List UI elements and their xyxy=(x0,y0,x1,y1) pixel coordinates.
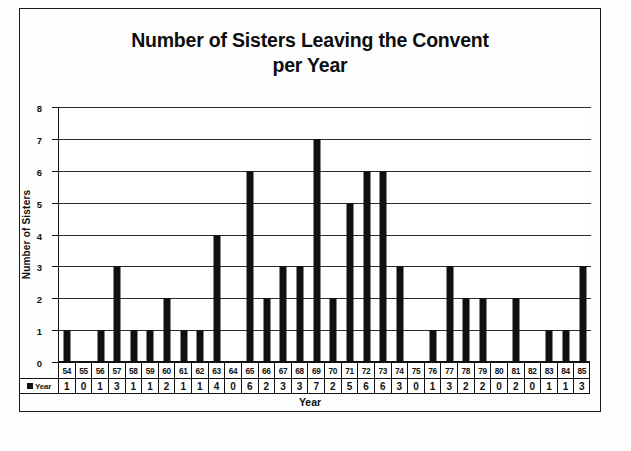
bar xyxy=(513,298,520,362)
y-tick: 4 xyxy=(52,235,59,236)
year-cell: 65 xyxy=(241,362,258,378)
value-cell: 1 xyxy=(141,378,158,394)
bar xyxy=(463,298,470,362)
year-cell: 76 xyxy=(424,362,441,378)
value-cell: 0 xyxy=(524,378,541,394)
bar-slot xyxy=(541,107,558,362)
value-cell: 6 xyxy=(241,378,258,394)
y-tick: 8 xyxy=(52,107,59,108)
value-cell: 3 xyxy=(573,378,590,394)
bar xyxy=(247,171,254,362)
bar xyxy=(114,266,121,362)
value-cell: 0 xyxy=(407,378,424,394)
year-cell: 78 xyxy=(457,362,474,378)
data-table: Year 54555657585960616263646566676869707… xyxy=(19,362,590,394)
series-swatch-icon xyxy=(27,383,33,389)
bar xyxy=(64,330,71,362)
y-tick: 5 xyxy=(52,203,59,204)
bar xyxy=(346,203,353,362)
y-tick-label: 3 xyxy=(37,262,42,273)
bar xyxy=(297,266,304,362)
value-cell: 3 xyxy=(391,378,408,394)
year-cell: 68 xyxy=(291,362,308,378)
y-tick-label: 6 xyxy=(37,166,42,177)
bar-slot xyxy=(574,107,591,362)
year-cell: 59 xyxy=(141,362,158,378)
plot-area: 012345678 xyxy=(58,107,590,362)
y-tick-label: 7 xyxy=(37,134,42,145)
chart-title: Number of Sisters Leaving the Convent pe… xyxy=(19,28,601,78)
bar-slot xyxy=(558,107,575,362)
bar-slot xyxy=(342,107,359,362)
value-cell: 2 xyxy=(474,378,491,394)
bar xyxy=(479,298,486,362)
bar xyxy=(197,330,204,362)
bar-slot xyxy=(292,107,309,362)
value-cell: 0 xyxy=(75,378,92,394)
bar-slot xyxy=(192,107,209,362)
bar xyxy=(263,298,270,362)
legend-label: Year xyxy=(35,382,51,391)
plot-wrapper: 012345678 xyxy=(58,107,590,362)
year-cell: 62 xyxy=(191,362,208,378)
value-cell: 4 xyxy=(208,378,225,394)
value-cell: 6 xyxy=(374,378,391,394)
bar-slot xyxy=(76,107,93,362)
bar xyxy=(396,266,403,362)
bar xyxy=(546,330,553,362)
y-tick-label: 5 xyxy=(37,198,42,209)
y-tick: 1 xyxy=(52,330,59,331)
value-cell: 5 xyxy=(341,378,358,394)
year-cell: 77 xyxy=(440,362,457,378)
value-cell: 3 xyxy=(440,378,457,394)
bars-group xyxy=(59,107,591,362)
bar xyxy=(97,330,104,362)
bar xyxy=(130,330,137,362)
bar xyxy=(579,266,586,362)
year-cell: 58 xyxy=(125,362,142,378)
year-cell: 56 xyxy=(91,362,108,378)
bar-slot xyxy=(59,107,76,362)
year-cell: 83 xyxy=(540,362,557,378)
value-cell: 1 xyxy=(58,378,75,394)
value-cell: 3 xyxy=(274,378,291,394)
bar-slot xyxy=(358,107,375,362)
bar-slot xyxy=(408,107,425,362)
chart-title-line-2: per Year xyxy=(19,53,601,78)
legend-cell: Year xyxy=(19,378,58,394)
bar xyxy=(330,298,337,362)
bar xyxy=(363,171,370,362)
bar-slot xyxy=(475,107,492,362)
value-cell: 1 xyxy=(125,378,142,394)
y-tick-label: 8 xyxy=(37,103,42,114)
bar xyxy=(446,266,453,362)
value-cell: 1 xyxy=(557,378,574,394)
bar xyxy=(147,330,154,362)
year-cell: 67 xyxy=(274,362,291,378)
y-tick-label: 1 xyxy=(37,326,42,337)
year-cell: 69 xyxy=(307,362,324,378)
year-cell: 57 xyxy=(108,362,125,378)
bar-slot xyxy=(491,107,508,362)
value-cell: 2 xyxy=(457,378,474,394)
value-cell: 2 xyxy=(158,378,175,394)
value-cell: 1 xyxy=(174,378,191,394)
data-table-header-row: Year 54555657585960616263646566676869707… xyxy=(19,362,590,378)
value-cell: 7 xyxy=(307,378,324,394)
bar-slot xyxy=(458,107,475,362)
bar xyxy=(164,298,171,362)
bar-slot xyxy=(308,107,325,362)
year-cell: 60 xyxy=(158,362,175,378)
year-cell: 79 xyxy=(474,362,491,378)
bar-slot xyxy=(159,107,176,362)
bar-slot xyxy=(242,107,259,362)
value-cell: 2 xyxy=(507,378,524,394)
value-cell: 6 xyxy=(357,378,374,394)
value-cell: 3 xyxy=(108,378,125,394)
chart-page: Number of Sisters Leaving the Convent pe… xyxy=(0,0,631,451)
year-cell: 54 xyxy=(58,362,75,378)
value-cell: 2 xyxy=(258,378,275,394)
value-cell: 0 xyxy=(490,378,507,394)
year-cell: 75 xyxy=(407,362,424,378)
bar xyxy=(313,139,320,362)
